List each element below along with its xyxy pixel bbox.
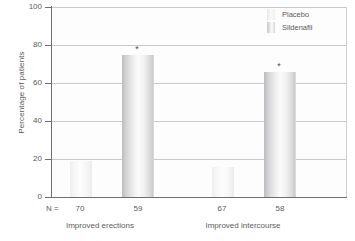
- bar-sildenafil-improved-erections[interactable]: [122, 55, 154, 197]
- n-label-placebo-intercourse: 67: [202, 205, 242, 213]
- y-tick-mark-0: [45, 197, 51, 198]
- y-axis-line: [51, 6, 52, 198]
- x-axis-line: [51, 197, 347, 198]
- significance-star-intercourse: *: [272, 62, 286, 71]
- legend-item-sildenafil[interactable]: Sildenafil: [267, 21, 349, 34]
- bars-layer: * *: [52, 7, 347, 197]
- y-tick-label-60: 60: [2, 79, 42, 87]
- legend: Placebo Sildenafil: [267, 8, 349, 34]
- legend-label-sildenafil: Sildenafil: [282, 23, 312, 32]
- bar-placebo-improved-intercourse[interactable]: [212, 167, 234, 197]
- y-tick-label-80: 80: [2, 41, 42, 49]
- bar-sildenafil-improved-intercourse[interactable]: [264, 72, 296, 197]
- y-tick-mark-100: [45, 7, 51, 8]
- y-tick-mark-40: [45, 121, 51, 122]
- y-tick-mark-20: [45, 159, 51, 160]
- group-label-improved-erections: Improved erections: [35, 222, 165, 230]
- y-tick-label-100: 100: [2, 3, 42, 11]
- y-tick-label-20: 20: [2, 155, 42, 163]
- legend-label-placebo: Placebo: [282, 10, 309, 19]
- significance-star-erections: *: [130, 45, 144, 54]
- y-tick-label-40: 40: [2, 117, 42, 125]
- y-tick-mark-80: [45, 45, 51, 46]
- legend-swatch-sildenafil-icon: [267, 22, 275, 33]
- n-label-sildenafil-erections: 59: [118, 205, 158, 213]
- y-tick-label-0: 0: [2, 193, 42, 201]
- y-tick-mark-60: [45, 83, 51, 84]
- bar-placebo-improved-erections[interactable]: [70, 161, 92, 197]
- group-label-improved-intercourse: Improved intercourse: [178, 222, 308, 230]
- bar-chart: Percentage of patients * * 100 80 60 40 …: [0, 0, 355, 241]
- n-label-sildenafil-intercourse: 58: [260, 205, 300, 213]
- n-label-placebo-erections: 70: [60, 205, 100, 213]
- legend-swatch-placebo-icon: [267, 9, 275, 20]
- legend-item-placebo[interactable]: Placebo: [267, 8, 349, 21]
